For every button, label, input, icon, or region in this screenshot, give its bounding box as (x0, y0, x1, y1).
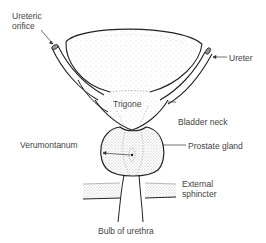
urethra (118, 175, 143, 222)
label-trigone: Trigone (113, 99, 142, 109)
label-bladder-neck: Bladder neck (178, 117, 228, 127)
external-sphincter (83, 183, 176, 199)
label-external-sphincter-line2: sphincter (182, 189, 217, 199)
label-ureteric-orifice-line1: Ureteric (12, 11, 42, 21)
label-external-sphincter: External sphincter (182, 179, 217, 199)
prostate-gland (101, 127, 164, 176)
verumontanum-marker (131, 154, 134, 157)
label-verumontanum: Verumontanum (20, 140, 78, 150)
bladder (66, 29, 202, 96)
label-prostate-gland: Prostate gland (188, 141, 243, 151)
label-ureteric-orifice: Ureteric orifice (12, 11, 42, 31)
label-ureteric-orifice-line2: orifice (12, 21, 42, 31)
label-external-sphincter-line1: External (182, 179, 217, 189)
label-ureter: Ureter (229, 53, 253, 63)
label-bulb-of-urethra: Bulb of urethra (98, 226, 154, 236)
